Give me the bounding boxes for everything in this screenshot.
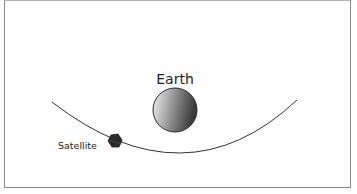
- orbit-diagram: Earth Satellite: [0, 0, 357, 194]
- earth-label: Earth: [156, 71, 194, 87]
- earth-icon: [153, 88, 197, 132]
- satellite-label: Satellite: [58, 140, 97, 151]
